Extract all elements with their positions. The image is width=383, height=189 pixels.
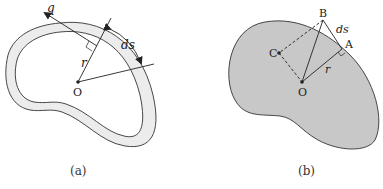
label-q: q xyxy=(47,1,55,15)
caption-a: (a) xyxy=(70,164,87,178)
label-A: A xyxy=(344,38,354,51)
figure-b: B ds A C r O (b) xyxy=(229,7,379,178)
label-ds-a: ds xyxy=(121,38,135,52)
label-C: C xyxy=(269,47,277,60)
label-B: B xyxy=(319,7,327,20)
caption-b: (b) xyxy=(298,164,315,178)
cross-section-shape xyxy=(229,21,379,149)
label-O-a: O xyxy=(73,86,82,99)
point-C xyxy=(277,51,281,55)
label-ds-b: ds xyxy=(336,23,349,36)
figure-a: q ds r O (a) xyxy=(6,1,156,178)
point-O-a xyxy=(76,80,80,84)
label-r-b: r xyxy=(325,63,331,76)
label-O-b: O xyxy=(298,86,307,99)
diagram-canvas: q ds r O (a) B ds A C r O (b) xyxy=(0,0,383,189)
point-O-b xyxy=(300,80,304,84)
